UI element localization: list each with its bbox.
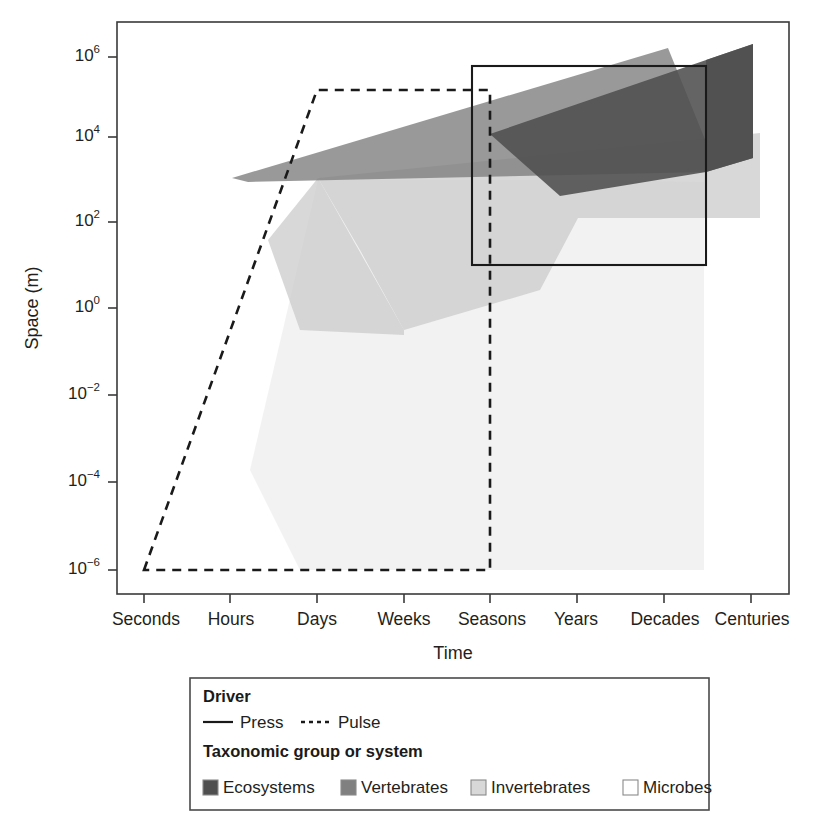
legend-label-microbes: Microbes (643, 778, 712, 797)
x-tick-label-seconds: Seconds (112, 609, 180, 629)
legend-label-pulse: Pulse (338, 713, 381, 732)
legend-heading-driver: Driver (203, 687, 251, 705)
data-polygons (232, 44, 760, 570)
y-tick-label: 10−2 (68, 381, 100, 403)
y-tick-label: 102 (75, 208, 100, 230)
x-tick-label-weeks: Weeks (377, 609, 430, 629)
y-tick-label: 10−6 (68, 556, 100, 578)
series-polygon-ecosystems-right (706, 44, 753, 172)
y-tick-label: 100 (75, 294, 100, 316)
x-tick-label-decades: Decades (630, 609, 699, 629)
y-tick-label: 10−4 (68, 468, 101, 490)
legend-swatch-ecosystems (203, 780, 218, 795)
y-axis-labels: 106 104 102 100 10−2 10−4 10−6 (68, 43, 101, 578)
y-tick-label: 106 (75, 43, 100, 65)
legend-heading-taxonomic: Taxonomic group or system (203, 742, 423, 760)
figure-container: 106 104 102 100 10−2 10−4 10−6 Space (m) (0, 0, 821, 839)
legend-label-vertebrates: Vertebrates (361, 778, 448, 797)
x-axis-title: Time (433, 643, 472, 663)
y-axis-title: Space (m) (22, 266, 42, 349)
x-axis-ticks (144, 594, 751, 603)
x-tick-label-centuries: Centuries (715, 609, 790, 629)
space-time-chart: 106 104 102 100 10−2 10−4 10−6 Space (m) (0, 0, 821, 839)
x-tick-label-years: Years (554, 609, 598, 629)
legend-label-invertebrates: Invertebrates (491, 778, 590, 797)
legend-swatch-invertebrates (471, 780, 486, 795)
y-tick-label: 104 (75, 123, 101, 145)
x-tick-label-seasons: Seasons (458, 609, 526, 629)
x-tick-label-days: Days (297, 609, 337, 629)
y-axis-ticks (108, 57, 117, 570)
legend-label-ecosystems: Ecosystems (223, 778, 315, 797)
chart-legend: Driver Press Pulse Taxonomic group or sy… (190, 678, 712, 810)
legend-label-press: Press (240, 713, 283, 732)
x-tick-label-hours: Hours (208, 609, 255, 629)
legend-swatch-vertebrates (341, 780, 356, 795)
legend-swatch-microbes (623, 780, 638, 795)
x-axis-labels: Seconds Hours Days Weeks Seasons Years D… (112, 609, 790, 629)
